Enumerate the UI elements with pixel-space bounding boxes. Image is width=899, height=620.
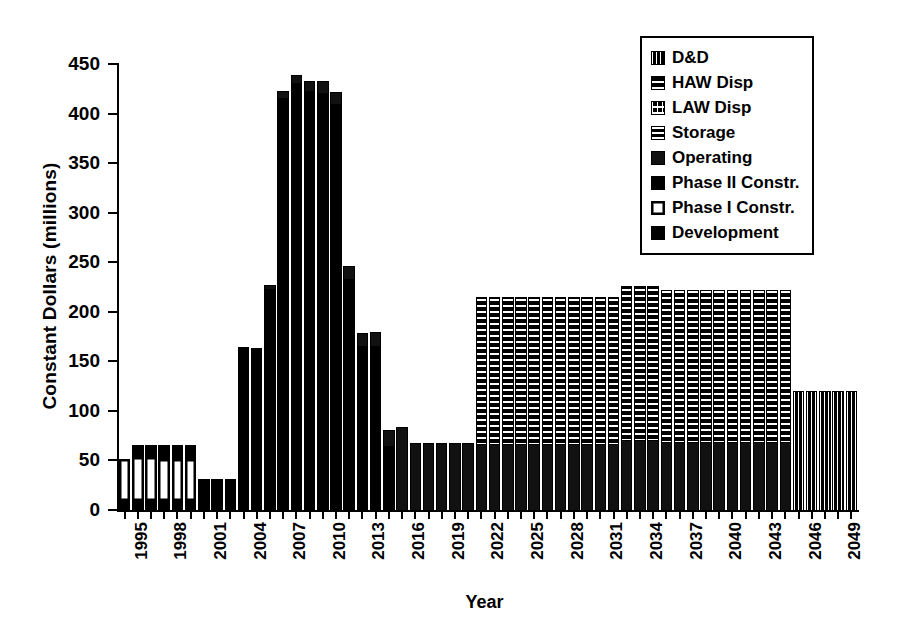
bar [516, 298, 526, 510]
bar-segment-haw [622, 287, 632, 441]
bar-segment-p2 [318, 94, 328, 510]
bar [833, 392, 843, 510]
bar-segment-op [529, 445, 539, 510]
bar [622, 287, 632, 510]
legend-item-dd[interactable]: D&D [651, 45, 800, 70]
legend-item-op[interactable]: Operating [651, 145, 800, 170]
bar-segment-haw [609, 298, 619, 445]
bar-segment-op [675, 443, 685, 510]
x-tick-label: 2037 [687, 522, 707, 560]
x-tick-mark [573, 511, 575, 519]
bar-segment-haw [767, 291, 777, 443]
y-tick-label: 0 [42, 499, 100, 521]
x-tick-mark [665, 511, 667, 519]
bar [173, 446, 183, 510]
x-tick-mark [613, 511, 615, 519]
x-tick-mark [718, 511, 720, 519]
bar-segment-op [754, 443, 764, 510]
bar [292, 76, 302, 510]
bar-segment-p2 [265, 290, 275, 510]
bar-segment-op [635, 441, 645, 510]
bar-segment-op [516, 445, 526, 510]
bar-segment-op [384, 431, 394, 447]
bar [397, 428, 407, 510]
bar [318, 82, 328, 510]
bar-segment-p1 [120, 460, 130, 500]
legend-item-haw[interactable]: HAW Disp [651, 70, 800, 95]
legend-label: Operating [672, 149, 752, 166]
bar-segment-op [728, 443, 738, 510]
x-tick-label: 2028 [568, 522, 588, 560]
x-tick-mark [480, 511, 482, 519]
bar-segment-p2 [331, 105, 341, 510]
y-tick-label: 250 [42, 251, 100, 273]
bar [820, 392, 830, 510]
bar-segment-dev [173, 500, 183, 510]
legend-item-dev[interactable]: Development [651, 220, 800, 245]
legend-item-p2[interactable]: Phase II Constr. [651, 170, 800, 195]
x-axis-title-label: Year [465, 592, 503, 612]
x-tick-mark [322, 511, 324, 519]
bar-segment-haw [516, 298, 526, 445]
x-tick-mark [850, 511, 852, 519]
bar-segment-haw [556, 298, 566, 445]
bar-segment-p2 [371, 347, 381, 510]
legend-label: Development [672, 224, 779, 241]
legend-swatch-icon [651, 226, 665, 240]
bar-segment-haw [741, 291, 751, 443]
bar [371, 333, 381, 510]
legend-item-storage[interactable]: Storage [651, 120, 800, 145]
x-tick-mark [520, 511, 522, 519]
x-tick-label: 2016 [409, 522, 429, 560]
bar [146, 446, 156, 510]
bar [278, 92, 288, 510]
bar [265, 286, 275, 510]
bar-segment-p1 [173, 460, 183, 500]
x-tick-mark [626, 511, 628, 519]
bar-segment-op [622, 441, 632, 510]
bar [331, 93, 341, 510]
bar-segment-haw [688, 291, 698, 443]
bar-segment-op [371, 333, 381, 348]
bar [252, 349, 262, 510]
legend-label: LAW Disp [672, 99, 751, 116]
chart-legend: D&DHAW DispLAW DispStorageOperatingPhase… [640, 36, 814, 255]
x-tick-mark [599, 511, 601, 519]
legend-label: Phase I Constr. [672, 199, 795, 216]
bar-segment-dev [120, 500, 130, 510]
bar-segment-p2 [358, 347, 368, 510]
y-tick-label: 50 [42, 449, 100, 471]
bar-segment-op [477, 445, 487, 510]
x-tick-mark [348, 511, 350, 519]
x-tick-mark [295, 511, 297, 519]
x-tick-mark [784, 511, 786, 519]
bar [807, 392, 817, 510]
bar-segment-op [556, 445, 566, 510]
legend-swatch-icon [651, 176, 665, 190]
bar-segment-op [741, 443, 751, 510]
x-tick-mark [533, 511, 535, 519]
bar-segment-op [648, 441, 658, 510]
x-tick-mark [758, 511, 760, 519]
y-tick-label: 350 [42, 152, 100, 174]
x-tick-label: 1998 [171, 522, 191, 560]
bar-segment-op [463, 444, 473, 510]
bar-segment-p2 [159, 446, 169, 461]
bar-segment-op [424, 444, 434, 510]
bar-segment-haw [635, 287, 645, 441]
y-tick-label: 200 [42, 301, 100, 323]
bar-segment-haw [596, 298, 606, 445]
bar-segment-op [543, 445, 553, 510]
x-tick-label: 2001 [211, 522, 231, 560]
x-axis-title: Year [0, 592, 899, 613]
legend-item-law[interactable]: LAW Disp [651, 95, 800, 120]
bar-segment-op [490, 445, 500, 510]
x-tick-mark [586, 511, 588, 519]
bar-segment-p2 [133, 446, 143, 459]
legend-label: HAW Disp [672, 74, 753, 91]
bar-chart: Constant Dollars (millions) 050100150200… [0, 0, 899, 620]
legend-item-p1[interactable]: Phase I Constr. [651, 195, 800, 220]
bar [596, 298, 606, 510]
bar-segment-haw [728, 291, 738, 443]
x-tick-label: 2034 [647, 522, 667, 560]
